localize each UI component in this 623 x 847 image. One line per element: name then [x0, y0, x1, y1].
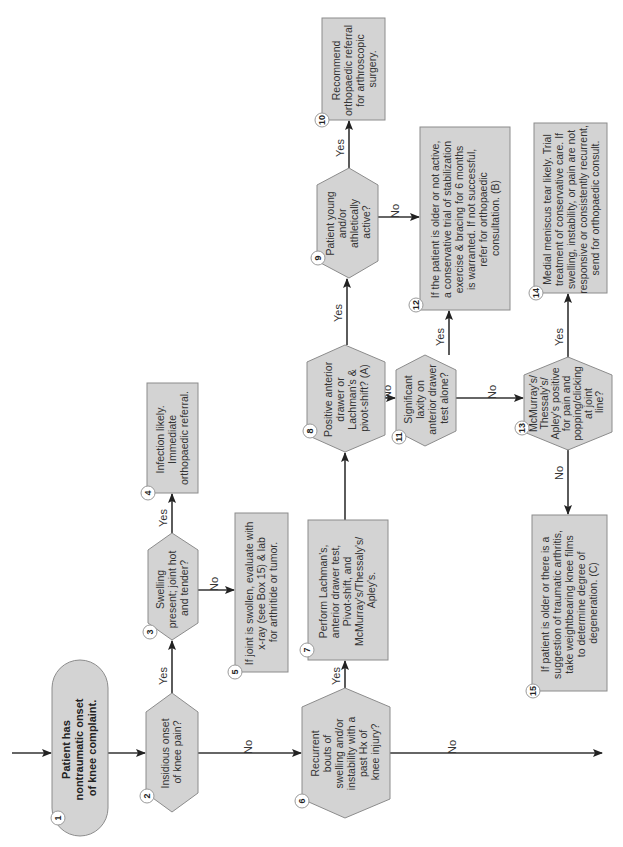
svg-text:10: 10: [317, 115, 327, 125]
svg-text:8: 8: [305, 428, 315, 433]
edge-label-no: No: [389, 204, 401, 218]
svg-text:5: 5: [230, 669, 240, 674]
node-4-process: Infection likely. Immediate orthopaedic …: [141, 383, 198, 500]
node-9-decision: Patient young and/or athletically active…: [311, 168, 378, 278]
node-13-decision: McMurray's/ Thessaly's/ Apley's positive…: [515, 357, 612, 450]
edge-label-no: No: [446, 740, 458, 754]
svg-text:6: 6: [297, 798, 307, 803]
node-11-decision: Significant laxity on anterior drawer te…: [392, 355, 456, 446]
svg-text:14: 14: [531, 288, 541, 298]
edge-label-no: No: [553, 466, 565, 480]
node-5-process: If joint is swollen, evaluate with x-ray…: [228, 513, 288, 679]
edge-label-yes: Yes: [332, 304, 344, 322]
node-10-process: Recommend orthopaedic referral for arthr…: [315, 18, 385, 127]
edge-label-no: No: [486, 385, 498, 399]
svg-text:7: 7: [302, 647, 312, 652]
svg-text:12: 12: [411, 300, 421, 310]
edge-label-yes: Yes: [157, 509, 169, 527]
svg-text:1: 1: [53, 815, 63, 820]
edge-label-yes: Yes: [553, 328, 565, 346]
node-6-decision: Recurrent bouts of swelling and/or insta…: [295, 688, 390, 818]
node-8-decision: Positive anterior drawer or Lachman's & …: [303, 345, 385, 452]
node-14-process: Medial meniscus tear likely. Trial treat…: [529, 122, 607, 300]
edge-label-no: No: [242, 740, 254, 754]
flowchart: Yes No Yes No Yes No Yes No Yes No Yes: [0, 0, 623, 847]
edge-label-yes: Yes: [330, 667, 342, 685]
node-7-process: Perform Lachman's, anterior drawer test,…: [300, 520, 388, 660]
svg-text:11: 11: [394, 432, 404, 442]
node-2-decision: Insidious onset of knee pain? 2: [140, 693, 198, 812]
svg-text:2: 2: [142, 793, 152, 798]
svg-text:15: 15: [528, 686, 538, 696]
node-1-terminal: Patient has nontraumatic onset of knee c…: [51, 660, 108, 836]
svg-text:13: 13: [517, 423, 527, 433]
edge-label-no: No: [208, 577, 220, 591]
svg-text:9: 9: [313, 255, 323, 260]
edge-label-yes: Yes: [157, 667, 169, 685]
node-12-process: If the patient is older or not active, a…: [409, 127, 510, 312]
edge-label-yes: Yes: [334, 139, 346, 157]
svg-text:3: 3: [145, 629, 155, 634]
node-15-process: If patient is older or there is a sugges…: [526, 515, 607, 698]
node-3-decision: Swelling present; joint hot and tender? …: [143, 533, 198, 640]
svg-text:Positive anterior drawer: Positive anterior drawer or Lachman's & …: [322, 359, 370, 437]
svg-text:4: 4: [143, 490, 153, 495]
edge-label-yes: Yes: [434, 328, 446, 346]
svg-text:Insidious onset of knee: Insidious onset of knee pain?: [159, 716, 183, 789]
svg-text:Medial meniscus tear likely. T: Medial meniscus tear likely. Trial treat…: [541, 122, 601, 294]
